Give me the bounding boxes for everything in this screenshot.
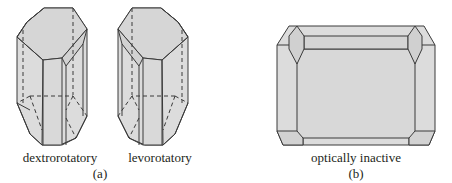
levorotatory-crystal [118,8,188,145]
panel-b-caption: (b) [341,166,371,182]
optically-inactive-crystal [277,26,435,145]
levorotatory-label: levorotatory [110,150,210,166]
dextrorotatory-label: dextrorotatory [10,150,110,166]
optically-inactive-label: optically inactive [296,150,416,166]
panel-a-caption: (a) [85,166,115,182]
dextrorotatory-crystal [17,8,87,145]
